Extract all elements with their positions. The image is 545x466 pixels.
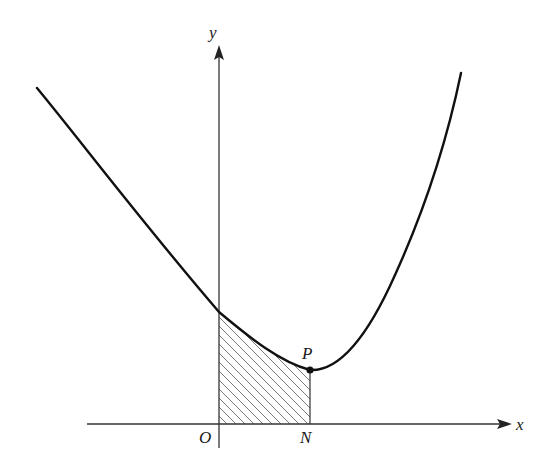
y-axis (214, 45, 224, 448)
shaded-region (94, 300, 431, 430)
origin-label: O (199, 428, 211, 447)
curve (37, 73, 461, 370)
point-n-label: N (299, 428, 313, 447)
point-p-label: P (301, 344, 312, 363)
y-axis-label: y (207, 23, 217, 42)
diagram: y x O P N (0, 0, 545, 466)
x-axis-label: x (515, 415, 524, 434)
point-p-marker (306, 366, 313, 373)
